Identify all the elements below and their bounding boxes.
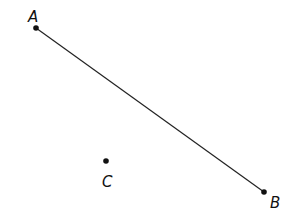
- segment-ab: [36, 28, 264, 192]
- point-c-dot: [103, 158, 109, 164]
- point-a-dot: [33, 25, 39, 31]
- point-b-label: B: [270, 194, 280, 212]
- point-a-label: A: [27, 8, 38, 26]
- point-b-dot: [261, 189, 267, 195]
- point-c-label: C: [102, 173, 113, 191]
- geometry-diagram: ABC: [0, 0, 296, 217]
